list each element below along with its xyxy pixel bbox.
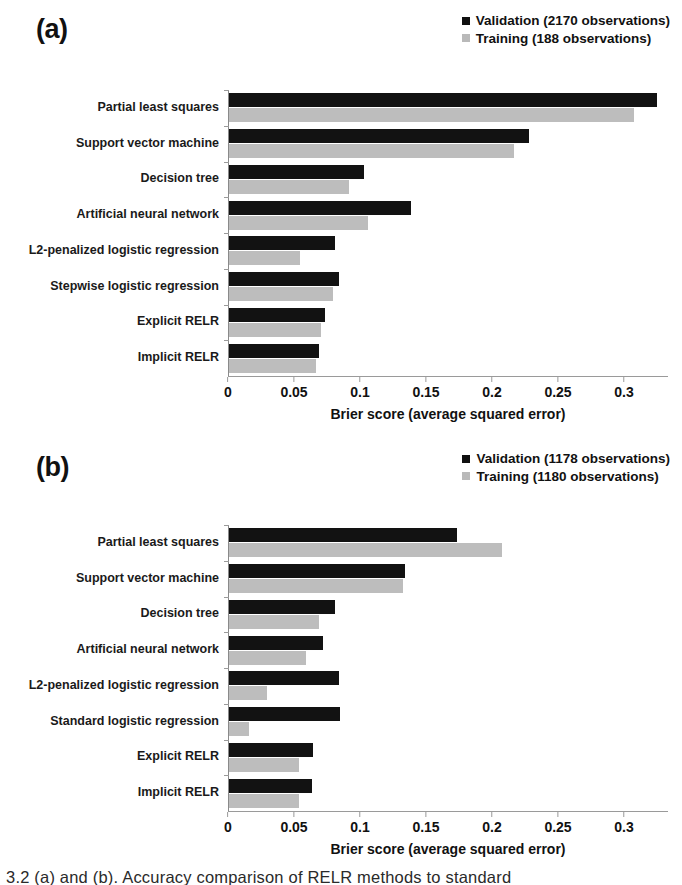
bar-training — [229, 615, 319, 629]
category-label: Support vector machine — [5, 572, 229, 586]
x-axis-tick: 0.05 — [280, 377, 307, 400]
x-axis-tick: 0 — [224, 377, 232, 400]
y-axis-tick — [224, 305, 229, 306]
legend-item-validation: Validation (1178 observations) — [462, 452, 670, 466]
category-label: Explicit RELR — [5, 316, 229, 330]
bar-training — [229, 686, 267, 700]
x-axis-tick-stem — [624, 377, 625, 382]
x-axis-tick-stem — [426, 812, 427, 817]
legend-panel-b: Validation (1178 observations) Training … — [462, 452, 670, 483]
bar-validation — [229, 236, 335, 250]
chart-panel-b: (b) Validation (1178 observations) Train… — [0, 440, 682, 870]
x-axis-tick-stem — [492, 812, 493, 817]
bar-training — [229, 579, 403, 593]
x-axis-tick-label: 0.25 — [544, 384, 571, 400]
y-axis-tick — [224, 90, 229, 91]
panel-label-a: (a) — [36, 14, 68, 45]
bar-validation — [229, 600, 335, 614]
legend-item-training: Training (1180 observations) — [462, 470, 658, 484]
bar-training — [229, 359, 316, 373]
filled-square-icon — [462, 34, 470, 42]
x-axis-tick-stem — [558, 812, 559, 817]
bar-group-row: Support vector machine — [229, 126, 669, 162]
x-axis-tick-stem — [360, 812, 361, 817]
panel-label-b: (b) — [36, 452, 69, 483]
bar-validation — [229, 636, 323, 650]
legend-label-validation: Validation (1178 observations) — [476, 452, 670, 466]
y-axis-tick — [224, 740, 229, 741]
x-axis-tick: 0.25 — [544, 812, 571, 835]
bar-training — [229, 216, 368, 230]
bar-training — [229, 651, 306, 665]
bar-group-row: L2-penalized logistic regression — [229, 668, 669, 704]
bar-training — [229, 108, 634, 122]
category-label: Artificial neural network — [5, 643, 229, 657]
category-label: Decision tree — [5, 608, 229, 622]
bar-group-row: Stepwise logistic regression — [229, 269, 669, 305]
x-axis-tick-stem — [558, 377, 559, 382]
bar-group-row: Implicit RELR — [229, 340, 669, 376]
y-axis-tick — [224, 269, 229, 270]
x-axis-tick: 0.15 — [412, 377, 439, 400]
bar-group-row: Partial least squares — [229, 90, 669, 126]
bar-training — [229, 722, 249, 736]
bar-validation — [229, 165, 364, 179]
category-label: Stepwise logistic regression — [5, 280, 229, 294]
y-axis-tick — [224, 597, 229, 598]
filled-square-icon — [462, 472, 470, 480]
bar-group-row: Artificial neural network — [229, 197, 669, 233]
bar-group-row: Implicit RELR — [229, 775, 669, 811]
bar-validation — [229, 564, 405, 578]
x-axis-tick: 0.15 — [412, 812, 439, 835]
category-label: Partial least squares — [5, 101, 229, 115]
x-axis-tick-label: 0.2 — [482, 819, 501, 835]
category-label: Explicit RELR — [5, 751, 229, 765]
bar-group-row: Decision tree — [229, 597, 669, 633]
bar-training — [229, 543, 502, 557]
plot-area-a: Partial least squaresSupport vector mach… — [228, 90, 669, 376]
x-axis-tick-stem — [492, 377, 493, 382]
x-axis-tick: 0.25 — [544, 377, 571, 400]
y-axis-tick — [224, 704, 229, 705]
bar-group-row: Artificial neural network — [229, 632, 669, 668]
category-label: Partial least squares — [5, 536, 229, 550]
plot-area-b: Partial least squaresSupport vector mach… — [228, 525, 669, 811]
y-axis-tick — [224, 775, 229, 776]
bar-group-row: Explicit RELR — [229, 740, 669, 776]
y-axis-tick — [224, 525, 229, 526]
plot-wrap-b: Partial least squaresSupport vector mach… — [0, 525, 682, 811]
x-axis-tick-stem — [426, 377, 427, 382]
category-label: L2-penalized logistic regression — [5, 244, 229, 258]
y-axis-tick — [224, 162, 229, 163]
x-axis-tick-label: 0.25 — [544, 819, 571, 835]
y-axis-tick — [224, 126, 229, 127]
y-axis-tick — [224, 233, 229, 234]
bar-validation — [229, 779, 312, 793]
legend-item-validation: Validation (2170 observations) — [462, 14, 670, 28]
x-axis-tick: 0 — [224, 812, 232, 835]
category-label: Implicit RELR — [5, 786, 229, 800]
x-axis-tick-stem — [294, 377, 295, 382]
bar-training — [229, 794, 299, 808]
bar-group-row: L2-penalized logistic regression — [229, 233, 669, 269]
x-axis-tick-label: 0.3 — [614, 819, 633, 835]
bar-validation — [229, 707, 340, 721]
chart-panel-a: (a) Validation (2170 observations) Train… — [0, 0, 682, 440]
x-axis-tick-stem — [227, 812, 228, 817]
bar-training — [229, 144, 514, 158]
x-axis-tick-label: 0.15 — [412, 819, 439, 835]
x-axis-tick-stem — [227, 377, 228, 382]
plot-wrap-a: Partial least squaresSupport vector mach… — [0, 90, 682, 376]
x-axis-tick-label: 0.2 — [482, 384, 501, 400]
bar-training — [229, 758, 299, 772]
x-axis-tick: 0.05 — [280, 812, 307, 835]
x-axis-tick: 0.2 — [482, 377, 501, 400]
bar-validation — [229, 308, 325, 322]
x-axis-tick-stem — [360, 377, 361, 382]
bar-training — [229, 287, 333, 301]
bar-group-row: Partial least squares — [229, 525, 669, 561]
y-axis-tick — [224, 561, 229, 562]
bar-group-row: Decision tree — [229, 162, 669, 198]
bar-validation — [229, 344, 319, 358]
x-axis-tick: 0.3 — [614, 377, 633, 400]
